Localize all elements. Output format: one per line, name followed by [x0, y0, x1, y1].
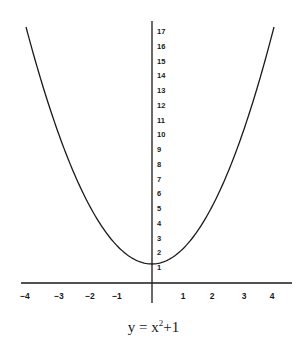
- parabola-curve: [26, 27, 274, 264]
- y-tick-label: 4: [157, 220, 161, 228]
- y-tick-label: 2: [157, 249, 161, 257]
- y-tick-label: 1: [157, 264, 161, 272]
- x-tick-label: −2: [85, 291, 95, 301]
- y-tick-label: 12: [157, 102, 165, 110]
- y-tick-label: 13: [157, 87, 165, 95]
- y-tick-label: 11: [157, 117, 165, 125]
- y-tick-label: 7: [157, 176, 161, 184]
- y-tick-label: 5: [157, 205, 161, 213]
- y-tick-label: 14: [157, 72, 165, 80]
- y-tick-label: 16: [157, 43, 165, 51]
- x-tick-label: 1: [181, 291, 186, 301]
- x-tick-label: 2: [210, 291, 215, 301]
- y-tick-label: 9: [157, 146, 161, 154]
- x-tick-label: 4: [270, 291, 275, 301]
- y-tick-label: 17: [157, 28, 165, 36]
- x-tick-label: −4: [20, 291, 30, 301]
- y-tick-label: 15: [157, 58, 165, 66]
- equation-rhs: +1: [163, 319, 179, 335]
- y-tick-label: 8: [157, 161, 161, 169]
- parabola-chart: [0, 0, 307, 348]
- x-tick-label: −1: [112, 291, 122, 301]
- y-tick-label: 10: [157, 131, 165, 139]
- y-tick-label: 6: [157, 190, 161, 198]
- x-tick-label: 3: [242, 291, 247, 301]
- equation-lhs: y = x: [128, 319, 159, 335]
- y-tick-label: 3: [157, 235, 161, 243]
- chart-title: y = x2+1: [0, 318, 307, 336]
- x-tick-label: −3: [54, 291, 64, 301]
